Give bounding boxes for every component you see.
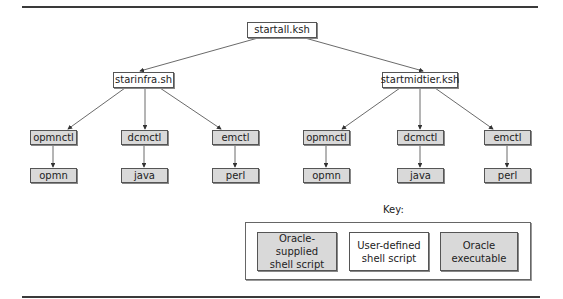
node-label: startall.ksh bbox=[254, 25, 310, 35]
node-left-emctl: emctl bbox=[212, 130, 259, 145]
node-startmidtier: startmidtier.ksh bbox=[382, 72, 458, 88]
node-right-opmnctl: opmnctl bbox=[303, 130, 350, 145]
node-label: dcmctl bbox=[404, 133, 438, 143]
bottom-rule bbox=[22, 296, 540, 298]
node-right-perl: perl bbox=[484, 168, 531, 183]
node-label: opmnctl bbox=[306, 133, 347, 143]
key-item-user-defined: User-defined shell script bbox=[349, 232, 429, 271]
node-right-emctl: emctl bbox=[484, 130, 531, 145]
node-label: opmnctl bbox=[33, 133, 74, 143]
node-left-dcmctl: dcmctl bbox=[121, 130, 168, 145]
node-right-opmn: opmn bbox=[303, 168, 350, 183]
node-starinfra: starinfra.sh bbox=[113, 72, 174, 88]
key-item-line2: executable bbox=[452, 252, 507, 265]
key-item-line2: shell script bbox=[357, 252, 420, 265]
key-item-line1: Oracle bbox=[452, 239, 507, 252]
key-title: Key: bbox=[383, 204, 404, 215]
key-item-line1: Oracle-supplied bbox=[258, 232, 336, 258]
node-startall: startall.ksh bbox=[247, 22, 317, 38]
node-left-opmnctl: opmnctl bbox=[30, 130, 77, 145]
node-label: emctl bbox=[493, 133, 521, 143]
key-item-line2: shell script bbox=[258, 258, 336, 271]
node-left-java: java bbox=[121, 168, 168, 183]
node-label: starinfra.sh bbox=[115, 75, 172, 85]
node-left-perl: perl bbox=[212, 168, 259, 183]
node-right-java: java bbox=[397, 168, 444, 183]
key-item-oracle-supplied: Oracle-supplied shell script bbox=[257, 232, 337, 271]
node-label: dcmctl bbox=[128, 133, 162, 143]
node-label: java bbox=[134, 171, 155, 181]
node-label: opmn bbox=[312, 171, 341, 181]
node-label: startmidtier.ksh bbox=[381, 75, 460, 85]
node-label: java bbox=[410, 171, 431, 181]
node-label: opmn bbox=[39, 171, 68, 181]
node-right-dcmctl: dcmctl bbox=[397, 130, 444, 145]
key-item-line1: User-defined bbox=[357, 239, 420, 252]
node-left-opmn: opmn bbox=[30, 168, 77, 183]
node-label: perl bbox=[498, 171, 517, 181]
node-label: perl bbox=[226, 171, 245, 181]
node-label: emctl bbox=[221, 133, 249, 143]
key-item-oracle-executable: Oracle executable bbox=[440, 232, 518, 271]
